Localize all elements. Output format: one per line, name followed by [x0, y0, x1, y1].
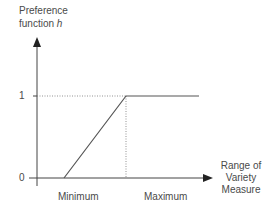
y-axis-label-line2: function h — [19, 18, 62, 30]
y-tick-label-0: 0 — [19, 172, 25, 184]
x-tick-label-minimum: Minimum — [58, 191, 99, 203]
x-tick-label-maximum: Maximum — [144, 191, 187, 203]
x-axis-arrow-icon — [203, 174, 213, 182]
y-tick-label-1: 1 — [19, 90, 25, 102]
x-axis-label-line3: Measure — [216, 184, 266, 196]
y-axis-label-variable: h — [57, 18, 63, 29]
y-axis-label-text: function — [19, 18, 57, 29]
x-axis-label-line1: Range of — [216, 160, 266, 172]
y-axis-label-line1: Preference — [19, 5, 68, 17]
preference-curve — [64, 96, 199, 178]
y-axis-arrow-icon — [33, 37, 41, 47]
x-axis-label-line2: Variety — [216, 172, 266, 184]
